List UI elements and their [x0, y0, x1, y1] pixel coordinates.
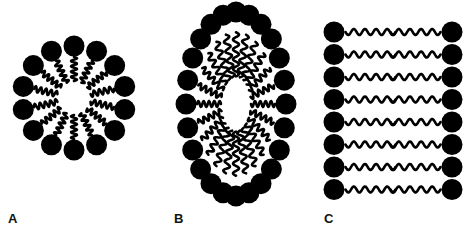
lipid-tail [391, 164, 441, 170]
lipid-head-group [104, 120, 125, 141]
spherical-micelle-diagram [0, 0, 158, 205]
lipid-head-group [324, 112, 345, 133]
lipid-tail [391, 97, 441, 103]
lipid-head-group [324, 179, 345, 200]
lipid-head-group [442, 89, 463, 110]
lipid-tail [346, 119, 396, 125]
lipid-head-group [41, 41, 62, 62]
lipid-head-group [324, 44, 345, 65]
lipid-tail [71, 57, 77, 81]
panel-label-a: A [8, 212, 17, 225]
lipid-molecule [324, 179, 396, 200]
lipid-head-group [442, 22, 463, 43]
lipid-head-group [442, 44, 463, 65]
lipid-head-group [23, 55, 44, 76]
lipid-head-group [213, 5, 234, 26]
lipid-head-group [442, 67, 463, 88]
lipid-bilayer-diagram [318, 0, 476, 212]
lipid-tail [346, 29, 396, 35]
panel-elongated-micelle [158, 0, 318, 212]
lipid-molecule [324, 157, 396, 178]
lipid-tail [71, 115, 77, 139]
lipid-molecule [391, 134, 463, 155]
lipid-tail [346, 142, 396, 148]
lipid-head-group [274, 70, 295, 91]
lipid-tail [391, 52, 441, 58]
lipid-tail [79, 113, 93, 135]
lipid-tail [251, 101, 275, 107]
figure-canvas: A B C [0, 0, 476, 243]
lipid-molecule [324, 22, 396, 43]
lipid-molecule [324, 134, 396, 155]
lipid-head-group [23, 120, 44, 141]
lipid-tail [55, 61, 69, 83]
lipid-tail [391, 142, 441, 148]
lipid-tail [91, 87, 114, 97]
lipid-head-group [13, 76, 34, 97]
panel-label-b: B [174, 212, 183, 225]
lipid-head-group [182, 140, 203, 161]
lipid-tail [34, 86, 57, 96]
lipid-head-group [324, 22, 345, 43]
lipid-molecule [324, 44, 396, 65]
lipid-tail [346, 187, 396, 193]
lipid-head-group [177, 117, 198, 138]
lipid-head-group [324, 89, 345, 110]
lipid-head-group [64, 140, 85, 161]
lipid-tail [197, 101, 221, 107]
lipid-molecule [391, 157, 463, 178]
lipid-head-group [13, 99, 34, 120]
lipid-tail [391, 74, 441, 80]
lipid-head-group [41, 134, 62, 155]
lipid-molecule [324, 67, 396, 88]
lipid-head-group [269, 48, 290, 69]
lipid-head-group [276, 94, 297, 115]
lipid-tail [346, 97, 396, 103]
lipid-head-group [86, 41, 107, 62]
lipid-head-group [86, 134, 107, 155]
lipid-tail [346, 164, 396, 170]
lipid-tail [41, 107, 61, 124]
lipid-head-group [324, 134, 345, 155]
lipid-head-group [114, 76, 135, 97]
lipid-head-group [104, 55, 125, 76]
lipid-molecule [391, 22, 463, 43]
panel-label-c: C [324, 212, 333, 225]
lipid-tail [346, 52, 396, 58]
lipid-head-group [64, 36, 85, 57]
lipid-head-group [442, 134, 463, 155]
lipid-head-group [177, 70, 198, 91]
lipid-tail [42, 71, 62, 88]
lipid-head-group [261, 28, 282, 49]
lipid-head-group [442, 112, 463, 133]
lipid-tail [91, 100, 114, 110]
lipid-head-group [442, 157, 463, 178]
lipid-tail [391, 187, 441, 193]
lipid-molecule [391, 179, 463, 200]
lipid-head-group [324, 157, 345, 178]
lipid-head-group [442, 179, 463, 200]
lipid-molecule [324, 112, 396, 133]
lipid-tail [87, 72, 107, 89]
lipid-tail [391, 119, 441, 125]
lipid-head-group [190, 159, 211, 180]
lipid-tail [346, 74, 396, 80]
lipid-molecule [391, 44, 463, 65]
lipid-head-group [182, 48, 203, 69]
lipid-head-group [274, 117, 295, 138]
panel-spherical-micelle [0, 0, 158, 205]
lipid-head-group [269, 140, 290, 161]
lipid-tail [34, 99, 57, 109]
lipid-head-group [176, 94, 197, 115]
lipid-molecule [391, 89, 463, 110]
elongated-micelle-diagram [158, 0, 318, 212]
lipid-tail [391, 29, 441, 35]
lipid-molecule [391, 67, 463, 88]
panel-lipid-bilayer [318, 0, 476, 212]
lipid-molecule [391, 112, 463, 133]
lipid-molecule [324, 89, 396, 110]
lipid-tail [86, 109, 106, 126]
lipid-head-group [114, 99, 135, 120]
lipid-head-group [324, 67, 345, 88]
